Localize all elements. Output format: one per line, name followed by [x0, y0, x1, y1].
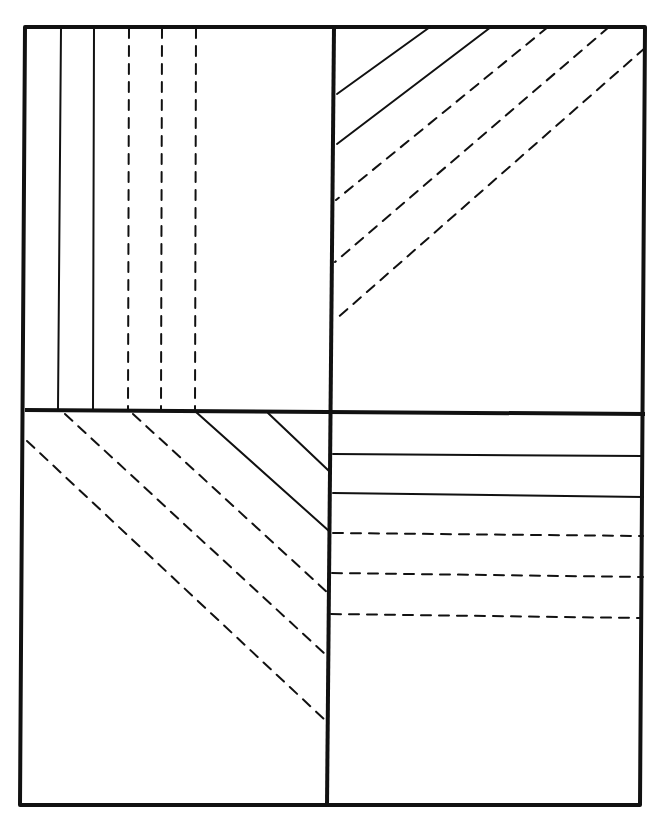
dashed-hatch-line	[161, 28, 162, 409]
diagram-frame	[20, 27, 645, 805]
solid-hatch-line	[333, 493, 643, 497]
dashed-hatch-line	[128, 28, 129, 409]
solid-hatch-line	[268, 413, 329, 471]
dashed-hatch-line	[195, 28, 196, 409]
dashed-hatch-line	[335, 27, 609, 262]
quadrant-top-right	[335, 27, 645, 320]
quadrant-bottom-left	[27, 412, 329, 720]
dashed-hatch-line	[27, 441, 325, 720]
dashed-hatch-line	[65, 414, 326, 655]
dashed-hatch-line	[331, 614, 641, 618]
quadrant-bottom-right	[331, 454, 643, 618]
solid-hatch-line	[196, 412, 329, 531]
vertical-divider	[327, 27, 334, 805]
dashed-hatch-line	[336, 27, 548, 200]
solid-hatch-line	[337, 27, 491, 144]
solid-hatch-line	[58, 28, 61, 409]
solid-hatch-line	[93, 28, 94, 409]
dashed-hatch-line	[335, 48, 645, 320]
solid-hatch-line	[333, 454, 643, 456]
quadrant-top-left	[58, 28, 196, 409]
quadrant-hatch-diagram	[0, 0, 670, 824]
horizontal-divider	[25, 410, 645, 414]
hatch-lines	[27, 27, 645, 720]
dashed-hatch-line	[332, 573, 643, 577]
dashed-hatch-line	[333, 533, 643, 536]
